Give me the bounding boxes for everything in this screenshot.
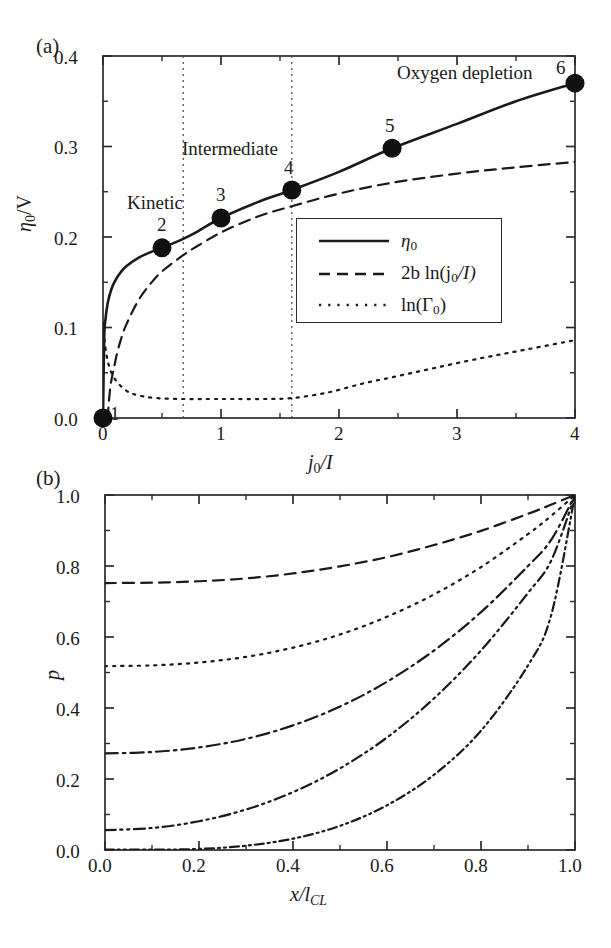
panel-a-y-axis-subscript: 0 [23,215,38,222]
panel-a-xtick-1: 1 [216,424,226,443]
series-curve-3 [105,495,575,753]
panel-b-xtick-2: 0.4 [276,856,300,875]
panel-a-xtick-2: 2 [334,424,344,443]
panel-a-xtick-3: 3 [452,424,462,443]
marker-label-1: 1 [110,404,120,423]
legend-tafel-subscript: 0 [451,270,458,285]
marker-label-2: 2 [157,215,167,234]
panel-a-ytick-2: 0.2 [54,229,78,248]
panel-b-x-axis-subscript: CL [310,893,327,908]
plot-frame [105,495,575,850]
panel-b-ytick-4: 0.8 [56,558,80,577]
panel-a-ytick-3: 0.3 [54,138,78,157]
panel-a-x-axis-title: j0/I [308,452,333,476]
panel-a-ytick-0: 0.0 [54,410,78,429]
legend-gamma-subscript: 0 [433,302,440,317]
panel-b-xtick-0: 0.0 [88,856,112,875]
panel-b-y-axis-title: p [42,670,62,680]
panel-b-ytick-5: 1.0 [56,487,80,506]
annotation-kinetic: Kinetic [127,193,183,212]
legend-gamma-tail: ) [440,294,446,315]
panel-a-ytick-1: 0.1 [54,319,78,338]
panel-b-ytick-0: 0.0 [56,842,80,861]
annotation-intermediate: Intermediate [182,139,278,158]
data-point-5 [383,139,402,158]
panel-a-legend: η0 2b ln(j0/I) ln(Γ0) [296,218,502,323]
axis-ticks [105,495,575,850]
figure-root: (a) η0/V 0.0 0.1 0.2 0.3 0.4 0 1 2 3 4 j… [0,0,611,948]
series-ln(Gamma_0) [103,323,575,399]
marker-label-4: 4 [284,158,294,177]
series-curve-4 [105,495,575,830]
panel-b-ytick-3: 0.6 [56,629,80,648]
panel-a-x-axis-subscript: 0 [314,461,321,476]
panel-a-ytick-4: 0.4 [54,48,78,67]
data-point-4 [282,180,301,199]
panel-a-y-axis-symbol: η [13,222,35,232]
panel-a-xtick-4: 4 [570,424,580,443]
series-curve-1 [105,495,575,583]
legend-label-gamma: ln(Γ0) [401,295,446,317]
data-point-6 [566,74,585,93]
marker-label-6: 6 [556,58,566,77]
panel-a-y-axis-title: η0/V [14,195,38,232]
legend-gamma-main: ln(Γ [401,294,433,315]
series-2b ln(j_0/I) [103,162,575,509]
panel-b-plot-canvas [0,0,611,948]
data-point-2 [153,238,172,257]
panel-b-ytick-1: 0.2 [56,771,80,790]
panel-a-xtick-0: 0 [98,424,108,443]
marker-label-5: 5 [385,116,395,135]
data-point-3 [212,208,231,227]
panel-b-xtick-1: 0.2 [182,856,206,875]
legend-tafel-main: 2b ln(j [401,262,451,283]
legend-label-tafel: 2b ln(j0/I) [401,263,476,285]
panel-a-plot-canvas [0,0,611,948]
series-group [105,495,575,850]
panel-b-ytick-2: 0.4 [56,700,80,719]
marker-label-3: 3 [216,185,226,204]
panel-b-xtick-5: 1.0 [558,856,582,875]
legend-label-eta0: η0 [401,231,417,253]
panel-b-x-axis-main: x/l [290,883,310,905]
series-curve-5 [105,495,575,850]
panel-b-xtick-4: 0.8 [464,856,488,875]
legend-eta-subscript: 0 [410,238,417,253]
panel-a-y-axis-unit: /V [13,195,35,215]
panel-b-x-axis-title: x/lCL [290,884,327,908]
panel-a-x-axis-denominator: /I [321,451,333,473]
legend-tafel-tail: /I) [458,262,476,283]
annotation-oxygen-depletion: Oxygen depletion [397,63,533,82]
panel-b-xtick-3: 0.6 [370,856,394,875]
series-curve-2 [105,495,575,666]
